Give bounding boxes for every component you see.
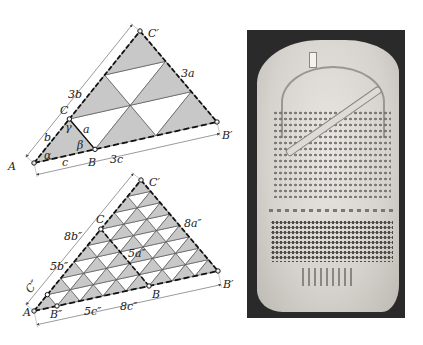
- label-side-3c: 3c: [110, 153, 123, 166]
- stone-tablet-photo: [247, 30, 405, 318]
- label-side-c: c: [62, 156, 68, 169]
- vertex-marker: [99, 227, 103, 231]
- label-point-C-prime: C′: [148, 27, 159, 40]
- label-point-C: C: [60, 104, 69, 117]
- vertex-marker: [93, 147, 97, 151]
- stone-tablet: [257, 40, 399, 312]
- label-point-B-dprime: B″: [49, 308, 63, 321]
- label-side-5c: 5c″: [84, 305, 102, 318]
- label-side-8a: 8a″: [184, 217, 203, 230]
- label-side-5b: 5b″: [50, 260, 69, 273]
- label-point-B-2: B: [151, 288, 160, 301]
- label-side-8b: 8b″: [64, 230, 83, 243]
- label-point-C-2: C: [96, 213, 105, 226]
- label-side-b: b: [44, 131, 51, 144]
- label-point-A-2: A: [22, 306, 31, 319]
- label-point-A: A: [7, 160, 16, 173]
- label-side-3b: 3b: [68, 88, 82, 101]
- label-point-B: B: [87, 156, 96, 169]
- label-point-B-prime-2: B′: [222, 278, 234, 291]
- label-angle-beta: β: [76, 139, 83, 152]
- label-point-B-prime: B′: [221, 129, 233, 142]
- label-side-5a: 5a″: [128, 247, 147, 260]
- carved-tab: [309, 52, 317, 68]
- label-side-a: a: [83, 123, 90, 136]
- label-angle-alpha: α: [44, 149, 52, 162]
- label-C-dprime: C″: [23, 277, 42, 296]
- label-side-8c: 8c″: [120, 300, 138, 313]
- vertex-marker: [147, 284, 151, 288]
- mark-band: [269, 205, 393, 215]
- label-side-3a: 3a: [181, 67, 195, 80]
- label-angle-gamma: γ: [65, 121, 72, 134]
- mark-cluster: [302, 268, 352, 286]
- vertex-marker: [45, 292, 49, 296]
- mark-grid-lower: [271, 220, 393, 262]
- label-point-C-prime-2: C′: [149, 176, 160, 189]
